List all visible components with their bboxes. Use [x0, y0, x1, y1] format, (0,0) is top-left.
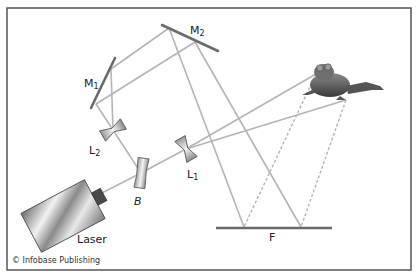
label-laser: Laser — [77, 234, 107, 245]
label-m2-main: M — [190, 24, 200, 37]
label-m1: M1 — [84, 78, 99, 91]
label-m2: M2 — [190, 25, 205, 38]
copyright-credit: © Infobase Publishing — [12, 256, 100, 265]
label-film: F — [269, 232, 275, 243]
label-l1: L1 — [187, 169, 198, 182]
optics-diagram — [0, 0, 416, 279]
label-m2-sub: 2 — [200, 29, 205, 38]
label-l1-sub: 1 — [193, 173, 198, 182]
label-l2-sub: 2 — [95, 149, 100, 158]
label-beam-splitter: B — [134, 196, 142, 207]
diagram-canvas: M1 M2 L2 L1 B Laser F © Infobase Publish… — [0, 0, 416, 279]
label-m1-main: M — [84, 77, 94, 90]
label-l2: L2 — [89, 145, 100, 158]
label-m1-sub: 1 — [94, 82, 99, 91]
